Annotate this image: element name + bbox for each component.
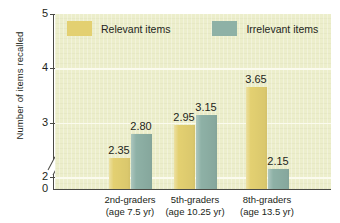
x-axis-category-label: 8th-graders(age 13.5 yr)	[222, 194, 312, 218]
y-tick-label: 4	[30, 62, 48, 73]
bar-relevant	[174, 125, 195, 189]
legend-swatch-relevant-icon	[67, 21, 92, 36]
gridline	[55, 68, 331, 70]
bar-value-label: 2.15	[262, 156, 295, 167]
legend: Relevant items Irrelevant items	[67, 21, 318, 36]
bar-chart: Number of items recalled 02345 2.352.802…	[0, 0, 340, 223]
legend-swatch-irrelevant-icon	[212, 21, 237, 36]
y-tick-label: 3	[30, 117, 48, 128]
y-tick-label: 5	[30, 8, 48, 19]
x-axis-grade-label: 8th-graders	[222, 194, 312, 206]
legend-item-irrelevant: Irrelevant items	[212, 21, 318, 36]
bar-irrelevant	[268, 169, 289, 189]
y-tick-label: 0	[30, 183, 48, 194]
bar-value-label: 3.65	[240, 74, 273, 85]
bar-relevant	[109, 158, 130, 189]
plot-area: 2.352.802.953.153.652.15 Relevant items …	[55, 14, 331, 189]
x-axis-labels: 2nd-graders(age 7.5 yr)5th-graders(age 1…	[55, 194, 331, 222]
bar-irrelevant	[196, 115, 217, 189]
bar-value-label: 3.15	[190, 102, 223, 113]
bar-relevant	[246, 87, 267, 189]
legend-label-irrelevant: Irrelevant items	[246, 23, 318, 35]
bar-value-label: 2.80	[125, 121, 158, 132]
legend-item-relevant: Relevant items	[67, 21, 170, 36]
x-axis-line	[53, 189, 331, 190]
bar-irrelevant	[131, 134, 152, 189]
legend-label-relevant: Relevant items	[101, 23, 170, 35]
x-axis-age-label: (age 13.5 yr)	[222, 206, 312, 218]
y-axis-title: Number of items recalled	[14, 16, 25, 156]
